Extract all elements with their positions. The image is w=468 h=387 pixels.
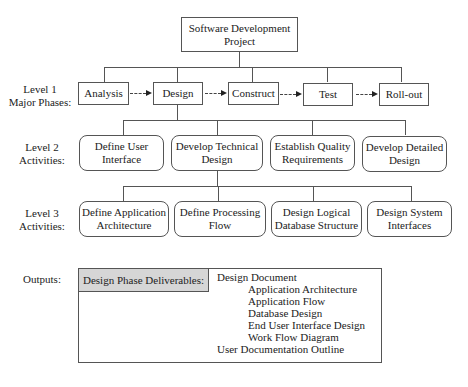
- arrowhead-icon: [146, 90, 152, 96]
- phase-analysis: Analysis: [78, 82, 129, 105]
- activity-label: Develop Technical: [176, 140, 258, 153]
- connector: [327, 67, 328, 82]
- connector: [401, 67, 402, 82]
- connector: [123, 120, 124, 135]
- activity-develop-detailed-design: Develop Detailed Design: [362, 136, 447, 172]
- deliverable-subitem: Application Flow: [217, 295, 365, 307]
- deliverable-subitem: Application Architecture: [217, 283, 365, 295]
- activity-design-system-interfaces: Design System Interfaces: [367, 201, 452, 237]
- level3-label-line2: Activities:: [14, 220, 70, 233]
- phase-test: Test: [303, 83, 353, 106]
- level3-label: Level 3 Activities:: [14, 207, 70, 233]
- arrowhead-icon: [296, 91, 302, 97]
- level1-label: Level 1 Major Phases:: [8, 83, 72, 109]
- connector: [217, 171, 218, 186]
- level2-label-line2: Activities:: [14, 154, 70, 167]
- level2-label-line1: Level 2: [14, 141, 70, 154]
- root-node: Software Development Project: [181, 17, 298, 52]
- outputs-label: Outputs:: [20, 273, 64, 286]
- phase-construct: Construct: [228, 82, 279, 105]
- deliverables-list: Design Document Application Architecture…: [217, 271, 365, 355]
- connector: [312, 120, 313, 135]
- activity-define-user-interface: Define User Interface: [79, 135, 164, 171]
- level2-label: Level 2 Activities:: [14, 141, 70, 167]
- activity-define-application-architecture: Define Application Architecture: [79, 201, 169, 237]
- root-label-line1: Software Development: [189, 22, 291, 35]
- level3-label-line1: Level 3: [14, 207, 70, 220]
- connector: [123, 120, 406, 121]
- level1-label-line2: Major Phases:: [8, 96, 72, 109]
- activity-define-processing-flow: Define Processing Flow: [174, 201, 266, 237]
- activity-label: Design System: [376, 206, 442, 219]
- phase-rollout: Roll-out: [379, 83, 429, 106]
- activity-label: Define User: [95, 140, 148, 153]
- flow-arrow-line: [205, 93, 221, 94]
- connector: [411, 186, 412, 201]
- flow-arrow-line: [356, 94, 372, 95]
- deliverable-subitem: End User Interface Design: [217, 319, 365, 331]
- flow-arrow-line: [130, 93, 146, 94]
- deliverable-subitem: Work Flow Diagram: [217, 331, 365, 343]
- connector: [218, 186, 219, 201]
- flow-arrow-line: [280, 94, 296, 95]
- deliverable-item: Design Document: [217, 271, 365, 283]
- connector: [313, 186, 314, 201]
- activity-label: Requirements: [282, 153, 343, 166]
- connector: [123, 186, 412, 187]
- arrowhead-icon: [372, 91, 378, 97]
- activity-design-logical-database-structure: Design Logical Database Structure: [271, 201, 362, 237]
- activity-label: Define Application: [82, 206, 166, 219]
- phase-design: Design: [153, 82, 203, 105]
- root-label-line2: Project: [224, 35, 255, 48]
- connector: [405, 120, 406, 135]
- arrowhead-icon: [221, 90, 227, 96]
- activity-label: Architecture: [97, 219, 152, 232]
- connector: [239, 52, 240, 67]
- activity-develop-technical-design: Develop Technical Design: [171, 135, 263, 171]
- connector: [177, 67, 178, 82]
- connector: [123, 186, 124, 201]
- deliverable-item: User Documentation Outline: [217, 343, 365, 355]
- activity-label: Database Structure: [275, 219, 358, 232]
- activity-label: Interface: [102, 153, 141, 166]
- activity-establish-quality-requirements: Establish Quality Requirements: [270, 135, 355, 171]
- activity-label: Design: [201, 153, 232, 166]
- connector: [104, 67, 402, 68]
- activity-label: Establish Quality: [274, 140, 350, 153]
- activity-label: Develop Detailed: [366, 141, 443, 154]
- connector: [252, 67, 253, 82]
- level1-label-line1: Level 1: [8, 83, 72, 96]
- outputs-header: Design Phase Deliverables:: [78, 268, 209, 292]
- deliverable-subitem: Database Design: [217, 307, 365, 319]
- connector: [104, 67, 105, 82]
- connector: [217, 120, 218, 135]
- activity-label: Define Processing: [180, 206, 260, 219]
- activity-label: Design: [389, 154, 420, 167]
- activity-label: Flow: [209, 219, 232, 232]
- connector: [177, 105, 178, 120]
- activity-label: Design Logical: [283, 206, 351, 219]
- activity-label: Interfaces: [388, 219, 431, 232]
